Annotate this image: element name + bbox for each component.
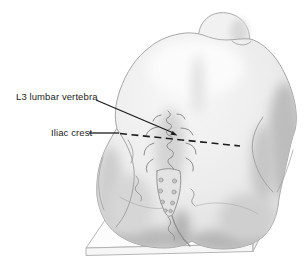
illustration-canvas (0, 0, 306, 269)
medical-illustration: L3 lumbar vertebra Iliac crest (0, 0, 306, 269)
label-l3-lumbar-vertebra: L3 lumbar vertebra (16, 92, 98, 102)
body (97, 33, 302, 252)
label-iliac-crest: Iliac crest (51, 128, 92, 138)
